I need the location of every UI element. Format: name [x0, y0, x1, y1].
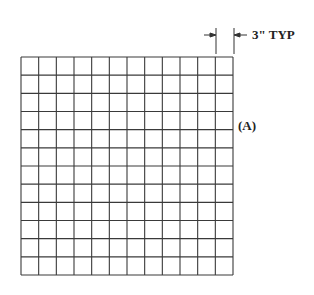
- dimension-marker: [204, 28, 247, 54]
- arrowhead-right-icon: [234, 33, 240, 37]
- grid-diagram: [0, 0, 314, 295]
- square-grid: [21, 57, 233, 275]
- arrowhead-left-icon: [210, 33, 216, 37]
- dimension-label: 3" TYP: [252, 27, 295, 43]
- callout-label-a: (A): [238, 118, 256, 134]
